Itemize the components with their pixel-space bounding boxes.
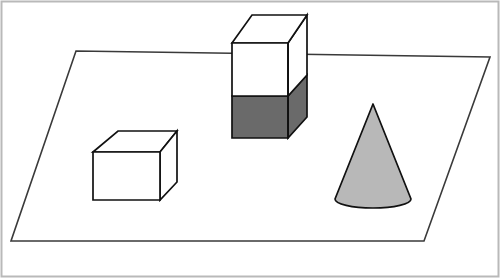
tall-box-front-face-upper: [232, 43, 288, 96]
scene-canvas: [0, 0, 500, 278]
scene-frame: 3D Scene Diagram three-dimensional scene…: [0, 0, 500, 278]
tall-box: [232, 15, 307, 138]
small-cube-front-face: [93, 152, 160, 200]
tall-box-front-face-lower: [232, 96, 288, 138]
small-cube: [93, 131, 177, 200]
